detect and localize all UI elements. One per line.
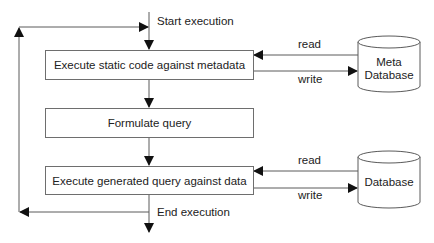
meta-database-label-line2: Database	[358, 69, 420, 82]
step-execute-generated-query: Execute generated query against data	[45, 166, 254, 195]
step-execute-static-code: Execute static code against metadata	[45, 50, 254, 80]
step-label: Formulate query	[108, 117, 192, 129]
meta-database-label: Meta Database	[358, 56, 420, 82]
db-read-label: read	[298, 154, 321, 166]
meta-database-label-line1: Meta	[358, 56, 420, 69]
database-label-line2: Database	[358, 176, 420, 189]
db-write-label: write	[298, 189, 322, 201]
start-execution-label: Start execution	[157, 15, 234, 27]
step-label: Execute generated query against data	[52, 175, 246, 187]
step-formulate-query: Formulate query	[45, 108, 254, 138]
end-execution-label: End execution	[157, 206, 230, 218]
database-label: Database	[358, 176, 420, 189]
meta-read-label: read	[298, 38, 321, 50]
step-label: Execute static code against metadata	[54, 59, 245, 71]
meta-write-label: write	[298, 73, 322, 85]
